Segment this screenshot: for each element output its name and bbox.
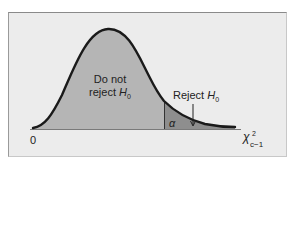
reject-label-h: H [207,89,215,101]
acceptance-label-sub: 0 [127,93,131,100]
reject-label-sub: 0 [215,96,219,103]
x-axis-label: χ2c−1 [243,131,250,144]
reject-label-text: Reject [173,89,207,101]
alpha-label: α [169,117,175,130]
origin-tick-label: 0 [30,134,36,147]
axis-chi: χ [243,130,250,144]
reject-label: Reject H0 [173,89,219,106]
acceptance-label-text: reject [89,86,119,98]
axis-subscript: c−1 [250,138,263,151]
acceptance-label-line1: Do not [80,73,140,86]
acceptance-label-h: H [119,86,127,98]
acceptance-label: Do not reject H0 [80,73,140,103]
acceptance-label-line2: reject H0 [80,86,140,103]
